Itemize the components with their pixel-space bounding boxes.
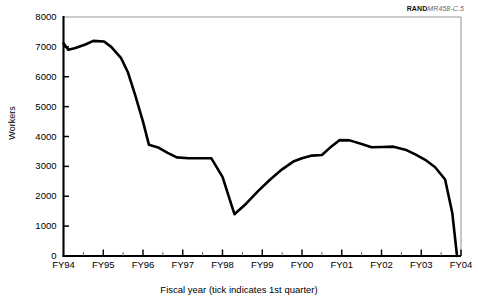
y-tick-label: 6000 [23, 72, 57, 82]
x-tick-label: FY94 [44, 259, 84, 270]
x-tick-label: FY00 [282, 259, 322, 270]
x-tick-label: FY04 [441, 259, 478, 270]
x-tick-label: FY96 [123, 259, 163, 270]
y-tick-label: 3000 [23, 161, 57, 171]
x-tick-label: FY98 [203, 259, 243, 270]
y-tick-label: 7000 [23, 42, 57, 52]
x-tick-label: FY03 [401, 259, 441, 270]
y-tick-label: 8000 [23, 12, 57, 22]
y-tick-label: 5000 [23, 102, 57, 112]
y-tick-label: 1000 [23, 221, 57, 231]
y-tick-label: 4000 [23, 132, 57, 142]
x-tick-label: FY99 [242, 259, 282, 270]
y-tick-label: 2000 [23, 191, 57, 201]
plot-frame [63, 17, 461, 256]
plot-axes [63, 16, 462, 257]
figure-container: RANDMR458-C.5 Workers 010002000300040005… [0, 0, 478, 307]
x-tick-label: FY01 [322, 259, 362, 270]
x-tick-label: FY97 [163, 259, 203, 270]
x-tick-label: FY02 [362, 259, 402, 270]
data-series-group [64, 41, 458, 256]
x-axis-title: Fiscal year (tick indicates 1st quarter) [0, 284, 478, 295]
x-tick-label: FY95 [83, 259, 123, 270]
